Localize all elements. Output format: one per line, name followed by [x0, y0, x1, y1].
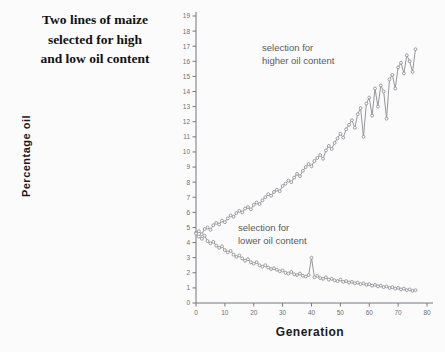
series-point-low — [299, 272, 302, 275]
series-point-high — [252, 203, 255, 206]
series-point-low — [241, 257, 244, 260]
series-point-high — [379, 84, 382, 87]
series-point-high — [405, 54, 408, 57]
series-point-low — [348, 281, 351, 284]
y-tick-label: 4 — [186, 239, 190, 246]
series-point-high — [408, 60, 411, 63]
series-point-high — [203, 228, 206, 231]
series-point-high — [304, 166, 307, 169]
series-point-low — [310, 256, 313, 259]
series-point-high — [241, 211, 244, 214]
series-point-low — [411, 289, 414, 292]
series-point-high — [267, 193, 270, 196]
series-point-high — [365, 102, 368, 105]
series-point-low — [221, 245, 224, 248]
series-point-low — [226, 251, 229, 254]
series-point-high — [284, 182, 287, 185]
x-tick-label: 60 — [366, 309, 374, 316]
series-point-high — [376, 105, 379, 108]
series-point-low — [342, 280, 345, 283]
series-point-high — [223, 221, 226, 224]
series-point-high — [287, 179, 290, 182]
series-point-low — [229, 249, 232, 252]
series-point-low — [209, 242, 212, 245]
series-point-low — [287, 272, 290, 275]
series-point-low — [324, 276, 327, 279]
series-point-high — [258, 203, 261, 206]
series-point-low — [235, 255, 238, 258]
series-point-high — [209, 228, 212, 231]
y-tick-label: 1 — [186, 284, 190, 291]
series-point-high — [327, 144, 330, 147]
y-tick-label: 7 — [186, 194, 190, 201]
series-point-low — [400, 288, 403, 291]
y-tick-label: 15 — [183, 73, 191, 80]
series-point-low — [379, 284, 382, 287]
series-point-high — [333, 141, 336, 144]
series-point-high — [388, 78, 391, 81]
series-point-high — [264, 196, 267, 199]
series-point-low — [365, 283, 368, 286]
series-point-high — [350, 119, 353, 122]
series-point-high — [353, 126, 356, 129]
series-point-low — [249, 261, 252, 264]
series-point-low — [307, 274, 310, 277]
y-tick-label: 19 — [183, 12, 191, 19]
series-point-high — [238, 209, 241, 212]
x-tick-label: 0 — [194, 309, 198, 316]
series-point-low — [402, 287, 405, 290]
x-tick-label: 30 — [279, 309, 287, 316]
series-point-low — [215, 244, 218, 247]
series-point-low — [368, 283, 371, 286]
series-point-low — [371, 284, 374, 287]
series-point-high — [290, 181, 293, 184]
series-point-low — [322, 277, 325, 280]
series-point-high — [296, 172, 299, 175]
series-point-high — [299, 175, 302, 178]
x-tick-label: 10 — [221, 309, 229, 316]
series-point-low — [339, 278, 342, 281]
y-tick-label: 8 — [186, 179, 190, 186]
series-point-high — [229, 214, 232, 217]
series-point-high — [307, 163, 310, 166]
y-tick-label: 17 — [183, 43, 191, 50]
series-point-high — [336, 137, 339, 140]
series-point-high — [200, 233, 203, 236]
y-tick-label: 11 — [183, 133, 190, 140]
series-point-high — [348, 123, 351, 126]
series-point-low — [212, 240, 215, 243]
series-point-low — [293, 273, 296, 276]
series-line-high — [196, 49, 415, 234]
series-point-low — [232, 253, 235, 256]
series-point-high — [411, 70, 414, 73]
series-point-low — [336, 280, 339, 283]
series-point-low — [281, 269, 284, 272]
series-point-high — [218, 223, 221, 226]
series-point-high — [275, 188, 278, 191]
chart-figure: Two lines of maize selected for high and… — [0, 0, 445, 352]
y-tick-label: 12 — [183, 118, 191, 125]
series-point-high — [330, 147, 333, 150]
series-point-high — [324, 149, 327, 152]
series-point-high — [359, 107, 362, 110]
series-point-high — [391, 73, 394, 76]
series-point-low — [296, 274, 299, 277]
series-point-high — [397, 66, 400, 69]
series-point-high — [356, 113, 359, 116]
series-point-low — [408, 288, 411, 291]
series-point-high — [197, 230, 200, 233]
series-point-low — [275, 268, 278, 271]
series-point-high — [322, 157, 325, 160]
series-point-high — [374, 87, 377, 90]
series-point-low — [405, 289, 408, 292]
series-point-low — [374, 283, 377, 286]
x-tick-label: 70 — [395, 309, 403, 316]
series-point-low — [264, 264, 267, 267]
series-point-low — [397, 286, 400, 289]
x-tick-label: 80 — [423, 309, 431, 316]
series-point-low — [350, 280, 353, 283]
series-point-low — [316, 274, 319, 277]
series-point-low — [362, 282, 365, 285]
series-point-low — [385, 285, 388, 288]
y-tick-label: 6 — [186, 209, 190, 216]
